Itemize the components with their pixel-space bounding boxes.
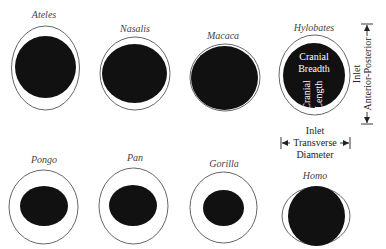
cranial-breadth-label-1: Cranial bbox=[299, 51, 329, 62]
td-label-inlet: Inlet bbox=[306, 125, 325, 136]
arrow-right-icon bbox=[343, 140, 349, 146]
species-label: Pongo bbox=[30, 154, 57, 165]
species-group: AtelesNasalisMacacaHylobatesPongoPanGori… bbox=[9, 9, 350, 246]
species-nasalis: Nasalis bbox=[100, 23, 170, 110]
species-pongo: Pongo bbox=[9, 154, 78, 244]
td-label-transverse: Transverse bbox=[293, 137, 337, 148]
transverse-diameter-arrow: Inlet Transverse Diameter bbox=[281, 125, 350, 160]
species-pan: Pan bbox=[99, 152, 168, 244]
arrow-down-icon bbox=[364, 117, 370, 123]
species-label: Pan bbox=[126, 152, 143, 163]
species-ateles: Ateles bbox=[12, 9, 80, 110]
species-homo: Homo bbox=[282, 170, 350, 246]
neonatal-cranium-shape bbox=[20, 186, 68, 226]
neonatal-cranium-shape bbox=[288, 186, 345, 246]
neonatal-cranium-shape bbox=[109, 185, 157, 226]
neonatal-cranium-shape bbox=[102, 44, 167, 103]
neonatal-cranium-shape bbox=[15, 36, 76, 98]
neonatal-cranium-shape bbox=[203, 190, 244, 226]
neonatal-cranium-shape bbox=[191, 46, 258, 110]
species-gorilla: Gorilla bbox=[190, 158, 257, 243]
species-label: Gorilla bbox=[209, 158, 238, 169]
anterior-posterior-arrow: Inlet Anterior-Posterior bbox=[351, 24, 373, 124]
species-label: Nasalis bbox=[119, 23, 150, 34]
arrow-up-icon bbox=[364, 25, 370, 31]
arrow-left-icon bbox=[282, 140, 288, 146]
pelvic-inlet-diagram: AtelesNasalisMacacaHylobatesPongoPanGori… bbox=[0, 0, 386, 249]
species-macaca: Macaca bbox=[190, 30, 260, 111]
species-label: Homo bbox=[302, 170, 327, 181]
species-label: Ateles bbox=[31, 9, 57, 20]
cranial-length-label-2: Length bbox=[313, 81, 324, 109]
td-label-diameter: Diameter bbox=[296, 149, 334, 160]
ap-label-inlet: Inlet bbox=[351, 65, 362, 84]
species-label: Hylobates bbox=[293, 22, 335, 33]
ap-label-anterior-posterior: Anterior-Posterior bbox=[362, 37, 373, 111]
species-label: Macaca bbox=[206, 30, 239, 41]
cranial-length-label-1: Cranial bbox=[301, 80, 312, 110]
cranial-breadth-label-2: Breadth bbox=[298, 63, 330, 74]
